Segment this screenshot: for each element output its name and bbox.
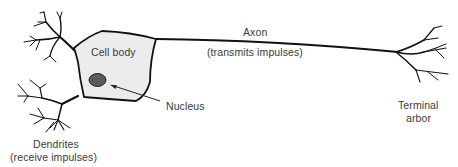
terminal-arbor-label-line2: arbor bbox=[406, 112, 431, 124]
cell-body-label: Cell body bbox=[91, 46, 136, 58]
nucleus-label: Nucleus bbox=[166, 100, 205, 112]
nucleus-shape bbox=[89, 74, 106, 87]
upper-dendrites bbox=[24, 12, 74, 62]
dendrites-function-label: (receive impulses) bbox=[10, 151, 97, 163]
axon-function-label: (transmits impulses) bbox=[207, 46, 303, 58]
terminal-arbor-branches bbox=[396, 26, 448, 82]
dendrites-label: Dendrites bbox=[33, 138, 79, 150]
axon-label: Axon bbox=[243, 26, 267, 38]
lower-dendrites bbox=[18, 80, 78, 132]
terminal-arbor-label-line1: Terminal bbox=[398, 99, 438, 111]
cell-body-shape bbox=[74, 31, 156, 101]
